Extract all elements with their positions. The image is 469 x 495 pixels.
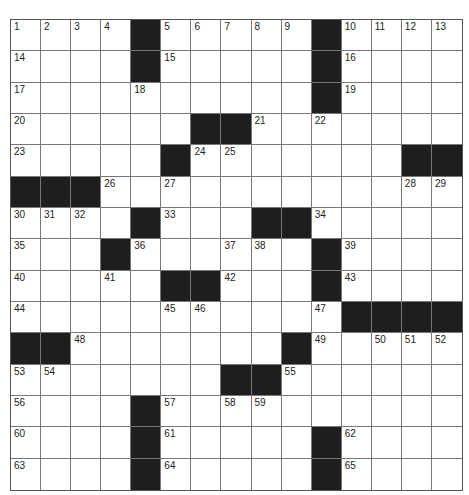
grid-cell[interactable] bbox=[161, 365, 191, 396]
grid-cell[interactable]: 10 bbox=[342, 20, 372, 51]
grid-cell[interactable] bbox=[372, 114, 402, 145]
grid-cell[interactable] bbox=[342, 145, 372, 176]
grid-cell[interactable] bbox=[432, 365, 462, 396]
grid-cell[interactable] bbox=[191, 427, 221, 458]
grid-cell[interactable] bbox=[342, 208, 372, 239]
grid-cell[interactable]: 60 bbox=[11, 427, 41, 458]
grid-cell[interactable] bbox=[191, 177, 221, 208]
grid-cell[interactable]: 50 bbox=[372, 333, 402, 364]
grid-cell[interactable]: 65 bbox=[342, 459, 372, 490]
grid-cell[interactable]: 63 bbox=[11, 459, 41, 490]
grid-cell[interactable] bbox=[191, 365, 221, 396]
grid-cell[interactable] bbox=[312, 177, 342, 208]
grid-cell[interactable] bbox=[71, 427, 101, 458]
grid-cell[interactable] bbox=[101, 145, 131, 176]
grid-cell[interactable]: 15 bbox=[161, 51, 191, 82]
grid-cell[interactable]: 26 bbox=[101, 177, 131, 208]
grid-cell[interactable] bbox=[101, 302, 131, 333]
grid-cell[interactable] bbox=[191, 396, 221, 427]
grid-cell[interactable] bbox=[432, 427, 462, 458]
grid-cell[interactable] bbox=[221, 333, 251, 364]
grid-cell[interactable] bbox=[41, 302, 71, 333]
grid-cell[interactable] bbox=[191, 459, 221, 490]
grid-cell[interactable] bbox=[101, 427, 131, 458]
grid-cell[interactable] bbox=[71, 396, 101, 427]
grid-cell[interactable]: 5 bbox=[161, 20, 191, 51]
grid-cell[interactable] bbox=[191, 333, 221, 364]
grid-cell[interactable]: 54 bbox=[41, 365, 71, 396]
grid-cell[interactable]: 13 bbox=[432, 20, 462, 51]
grid-cell[interactable] bbox=[161, 114, 191, 145]
grid-cell[interactable] bbox=[432, 396, 462, 427]
grid-cell[interactable] bbox=[402, 365, 432, 396]
grid-cell[interactable]: 56 bbox=[11, 396, 41, 427]
grid-cell[interactable]: 24 bbox=[191, 145, 221, 176]
grid-cell[interactable] bbox=[101, 459, 131, 490]
grid-cell[interactable] bbox=[131, 114, 161, 145]
grid-cell[interactable] bbox=[71, 83, 101, 114]
grid-cell[interactable]: 16 bbox=[342, 51, 372, 82]
grid-cell[interactable] bbox=[402, 427, 432, 458]
grid-cell[interactable] bbox=[372, 271, 402, 302]
grid-cell[interactable] bbox=[312, 396, 342, 427]
grid-cell[interactable] bbox=[161, 239, 191, 270]
grid-cell[interactable] bbox=[71, 239, 101, 270]
grid-cell[interactable] bbox=[41, 51, 71, 82]
grid-cell[interactable] bbox=[161, 333, 191, 364]
grid-cell[interactable]: 31 bbox=[41, 208, 71, 239]
grid-cell[interactable] bbox=[402, 114, 432, 145]
grid-cell[interactable] bbox=[101, 333, 131, 364]
grid-cell[interactable]: 3 bbox=[71, 20, 101, 51]
grid-cell[interactable]: 47 bbox=[312, 302, 342, 333]
grid-cell[interactable]: 43 bbox=[342, 271, 372, 302]
grid-cell[interactable] bbox=[41, 396, 71, 427]
grid-cell[interactable]: 22 bbox=[312, 114, 342, 145]
grid-cell[interactable] bbox=[221, 83, 251, 114]
grid-cell[interactable] bbox=[191, 208, 221, 239]
grid-cell[interactable] bbox=[71, 114, 101, 145]
grid-cell[interactable] bbox=[432, 239, 462, 270]
grid-cell[interactable] bbox=[372, 177, 402, 208]
grid-cell[interactable] bbox=[71, 51, 101, 82]
grid-cell[interactable] bbox=[252, 271, 282, 302]
grid-cell[interactable] bbox=[282, 177, 312, 208]
grid-cell[interactable]: 7 bbox=[221, 20, 251, 51]
grid-cell[interactable]: 40 bbox=[11, 271, 41, 302]
grid-cell[interactable]: 4 bbox=[101, 20, 131, 51]
grid-cell[interactable]: 28 bbox=[402, 177, 432, 208]
grid-cell[interactable]: 49 bbox=[312, 333, 342, 364]
grid-cell[interactable] bbox=[252, 145, 282, 176]
grid-cell[interactable] bbox=[191, 83, 221, 114]
grid-cell[interactable]: 19 bbox=[342, 83, 372, 114]
grid-cell[interactable] bbox=[282, 427, 312, 458]
grid-cell[interactable]: 45 bbox=[161, 302, 191, 333]
grid-cell[interactable]: 52 bbox=[432, 333, 462, 364]
grid-cell[interactable] bbox=[432, 271, 462, 302]
grid-cell[interactable] bbox=[41, 114, 71, 145]
grid-cell[interactable]: 8 bbox=[252, 20, 282, 51]
grid-cell[interactable]: 35 bbox=[11, 239, 41, 270]
grid-cell[interactable] bbox=[312, 365, 342, 396]
grid-cell[interactable]: 14 bbox=[11, 51, 41, 82]
grid-cell[interactable] bbox=[282, 396, 312, 427]
grid-cell[interactable] bbox=[101, 208, 131, 239]
grid-cell[interactable]: 18 bbox=[131, 83, 161, 114]
grid-cell[interactable] bbox=[221, 459, 251, 490]
grid-cell[interactable] bbox=[372, 459, 402, 490]
grid-cell[interactable]: 17 bbox=[11, 83, 41, 114]
grid-cell[interactable] bbox=[342, 333, 372, 364]
grid-cell[interactable] bbox=[402, 83, 432, 114]
grid-cell[interactable] bbox=[402, 396, 432, 427]
grid-cell[interactable]: 11 bbox=[372, 20, 402, 51]
grid-cell[interactable]: 36 bbox=[131, 239, 161, 270]
grid-cell[interactable] bbox=[372, 145, 402, 176]
grid-cell[interactable]: 55 bbox=[282, 365, 312, 396]
grid-cell[interactable]: 33 bbox=[161, 208, 191, 239]
grid-cell[interactable] bbox=[101, 114, 131, 145]
grid-cell[interactable] bbox=[101, 365, 131, 396]
grid-cell[interactable]: 53 bbox=[11, 365, 41, 396]
grid-cell[interactable] bbox=[71, 459, 101, 490]
grid-cell[interactable] bbox=[221, 208, 251, 239]
grid-cell[interactable] bbox=[372, 365, 402, 396]
grid-cell[interactable] bbox=[372, 208, 402, 239]
